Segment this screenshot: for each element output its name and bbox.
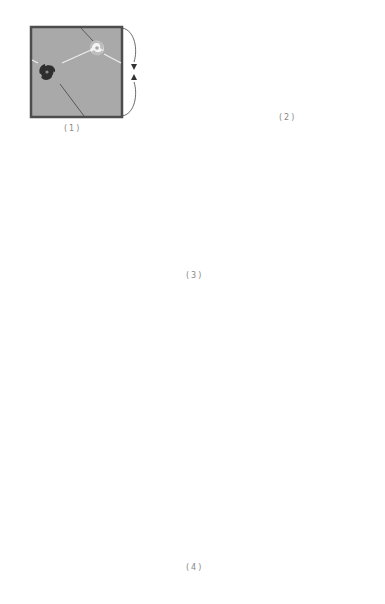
figure-canvas [0, 0, 385, 604]
caption-panel-4: (4) [186, 563, 203, 572]
caption-panel-2: (2) [279, 113, 296, 122]
caption-panel-1: (1) [64, 124, 81, 133]
caption-panel-3: (3) [186, 271, 203, 280]
panel-1-square [31, 27, 137, 117]
